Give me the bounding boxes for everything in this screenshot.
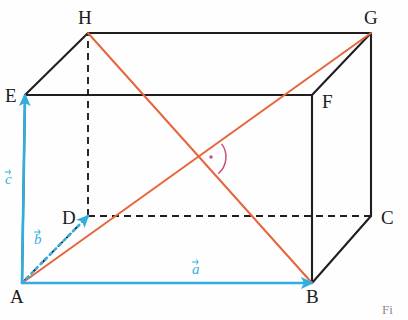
edge-HE [25,33,88,95]
diagonal-HB [88,33,312,283]
vector-arrow-group [22,95,312,283]
vertex-label-C: C [381,208,394,227]
diagonal-AG [22,33,371,283]
vector-label-text-c: c [5,171,12,187]
vector-label-a: a [192,262,200,277]
vertex-label-H: H [78,8,92,27]
vertex-label-F: F [322,92,333,111]
figure-caption: Fi [382,303,393,316]
cuboid-diagram [0,0,408,320]
edge-BC [312,216,371,283]
diagonal-group [22,33,371,283]
vector-label-text-b: b [34,231,42,247]
vertex-label-A: A [10,287,24,306]
angle-arc [218,144,226,174]
vector-label-b: b [34,232,42,247]
vector-c [22,95,25,283]
vector-b [22,216,88,283]
vector-label-c: c [5,172,12,187]
edge-FG [312,33,371,95]
vector-label-text-a: a [192,261,200,277]
angle-marker [209,144,226,174]
angle-dot [209,155,212,158]
vertex-label-G: G [364,8,378,27]
vertex-label-E: E [5,86,17,105]
vertex-label-B: B [306,287,319,306]
vertex-label-D: D [62,208,76,227]
figure-canvas: ABCDEFGH abc Fi [0,0,408,320]
